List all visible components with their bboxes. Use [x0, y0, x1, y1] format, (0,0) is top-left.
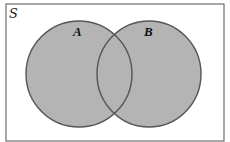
- set-b-label: B: [143, 24, 153, 39]
- set-a-label: A: [72, 24, 82, 39]
- universe-label: S: [9, 6, 18, 21]
- venn-diagram: S A B: [0, 0, 230, 142]
